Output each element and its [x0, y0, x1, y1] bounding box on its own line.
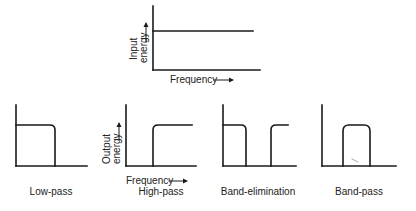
band-elimination-low-response [223, 125, 246, 166]
filter-diagram [0, 0, 416, 211]
output-ylabel-line2: energy [112, 133, 122, 164]
low-pass-response [16, 125, 55, 166]
caption-low-pass: Low-pass [30, 186, 73, 197]
stray-mark [352, 159, 358, 162]
caption-band-elimination: Band-elimination [221, 186, 296, 197]
output-xlabel: Frequency [126, 175, 173, 186]
band-pass-response [343, 125, 370, 166]
band-pass-plot [322, 105, 396, 166]
low-pass-plot [16, 105, 87, 166]
band-elimination-plot [223, 105, 296, 166]
caption-high-pass: High-pass [138, 186, 183, 197]
arrowhead-icon [144, 22, 149, 27]
arrowhead-icon [183, 179, 188, 184]
input-energy-plot [144, 6, 261, 83]
input-ylabel-line2: energy [139, 32, 149, 63]
high-pass-response [153, 125, 192, 166]
arrowhead-icon [229, 78, 234, 83]
input-xlabel: Frequency [170, 74, 217, 85]
band-elimination-high-response [271, 125, 288, 166]
high-pass-plot [117, 105, 197, 184]
arrowhead-icon [117, 122, 122, 127]
caption-band-pass: Band-pass [335, 186, 383, 197]
